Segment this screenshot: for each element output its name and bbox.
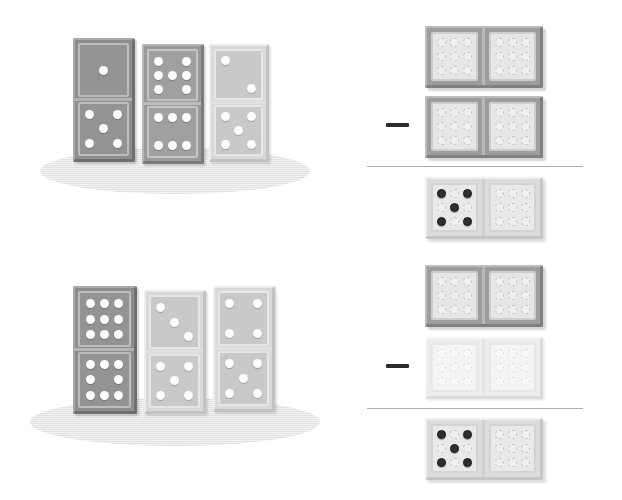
domino-right-half [489,271,536,320]
minus-operator-icon [386,364,409,368]
domino-right-half [489,102,536,151]
domino-divider [146,350,203,353]
domino-divider [75,348,134,351]
slot-grid-left [433,34,476,79]
domino-top-half [214,49,263,100]
domino-right-half [489,32,536,81]
domino-top-half [218,291,269,346]
pip-grid-top [80,293,129,345]
pip-grid-bottom [151,356,198,406]
pip-grid-top [80,45,127,95]
slot-grid-left [433,273,476,318]
domino-bottom-half [78,352,131,408]
worksheet-canvas [0,0,622,500]
pip-grid-top [149,51,196,99]
pip-grid-top [216,51,261,98]
domino-bottom-half [218,351,269,406]
domino-divider [482,98,484,155]
minus-operator-icon [386,123,409,127]
slot-grid-right [491,426,534,471]
domino-top-half [149,295,200,349]
problem-1 [0,0,622,250]
slot-grid-right [491,273,534,318]
slot-grid-right [491,345,534,390]
problem-2-result-domino[interactable] [425,418,543,480]
problem-1-result-domino[interactable] [425,177,543,239]
problem-2-minuend-domino[interactable] [425,265,543,327]
pip-grid-bottom [80,104,127,154]
problem-1-domino-1[interactable] [73,38,135,162]
domino-left-half [431,102,478,151]
domino-divider [482,267,484,324]
pip-grid-bottom [80,354,129,406]
pip-grid-bottom [220,353,267,404]
domino-divider [482,179,484,236]
problem-2-domino-2[interactable] [144,290,206,414]
equation-rule [367,166,583,167]
domino-right-half [489,424,536,473]
problem-2-domino-1[interactable] [73,286,137,414]
slot-grid-left [433,104,476,149]
domino-bottom-half [147,106,198,158]
domino-right-half [489,183,536,232]
slot-grid-right [491,104,534,149]
slot-grid-left [433,185,476,230]
problem-1-domino-3[interactable] [209,44,269,162]
problem-1-domino-2[interactable] [142,44,204,164]
domino-bottom-half [149,354,200,408]
slot-grid-right [491,185,534,230]
domino-right-half [489,343,536,392]
slot-grid-right [491,34,534,79]
domino-divider [482,28,484,85]
domino-left-half [431,424,478,473]
domino-top-half [78,43,129,97]
domino-left-half [431,183,478,232]
problem-2 [0,250,622,500]
domino-divider [215,347,272,350]
domino-divider [144,102,201,105]
domino-divider [482,420,484,477]
pip-grid-bottom [149,108,196,156]
pip-grid-top [151,297,198,347]
domino-left-half [431,271,478,320]
equation-rule [367,408,583,409]
pip-grid-bottom [216,107,261,154]
domino-top-half [147,49,198,101]
domino-divider [75,98,132,101]
domino-divider [211,101,266,104]
domino-top-half [78,291,131,347]
problem-2-domino-3[interactable] [213,286,275,412]
domino-left-half [431,32,478,81]
domino-divider [482,339,484,396]
problem-1-subtrahend-domino[interactable] [425,96,543,158]
slot-grid-left [433,426,476,471]
domino-left-half [431,343,478,392]
problem-2-subtrahend-domino[interactable] [425,337,543,399]
domino-bottom-half [78,102,129,156]
slot-grid-left [433,345,476,390]
problem-1-minuend-domino[interactable] [425,26,543,88]
domino-bottom-half [214,105,263,156]
pip-grid-top [220,293,267,344]
